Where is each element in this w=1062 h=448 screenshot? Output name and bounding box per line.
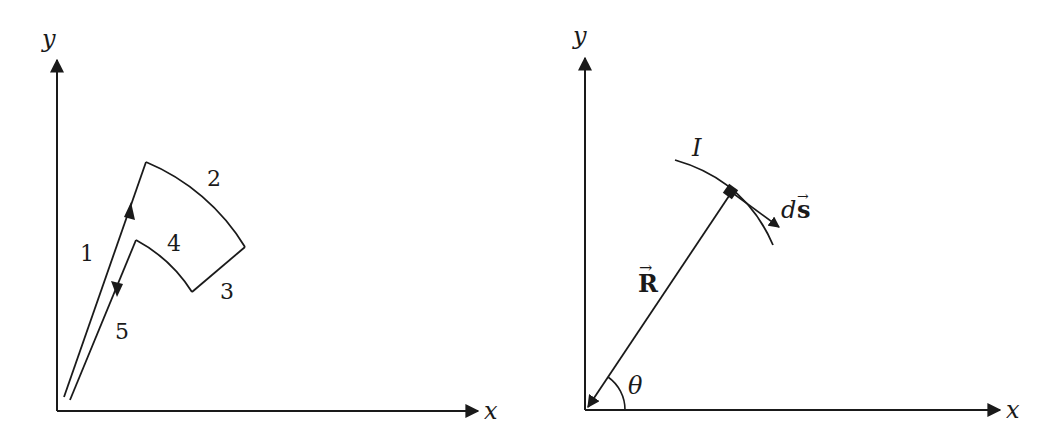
current-label: I xyxy=(691,134,702,162)
segment-label-5: 5 xyxy=(115,319,129,344)
segment-3 xyxy=(192,247,245,292)
segment-label-3: 3 xyxy=(220,279,234,304)
left-x-axis-label: x xyxy=(484,397,498,425)
left-y-axis-label: y xyxy=(41,25,56,53)
theta-label: θ xyxy=(628,372,643,400)
segment-1 xyxy=(64,162,146,397)
right-diagram: y x I R → d s → θ xyxy=(572,22,1020,424)
segment-4-inner-arc xyxy=(136,240,192,292)
arrow-up-icon xyxy=(124,202,135,220)
position-vector-arrow-accent: → xyxy=(639,258,652,277)
ds-label-d: d xyxy=(781,196,796,224)
position-vector-r xyxy=(588,193,731,407)
left-diagram: y x 1 2 3 4 5 xyxy=(41,25,498,425)
segment-label-1: 1 xyxy=(80,241,94,266)
theta-arc xyxy=(608,377,625,410)
right-y-axis-label: y xyxy=(572,22,587,50)
ds-vector xyxy=(734,194,779,227)
ds-arrow-accent: → xyxy=(797,188,809,204)
current-loop xyxy=(64,162,245,400)
current-element xyxy=(723,184,738,199)
segment-label-4: 4 xyxy=(167,231,181,256)
right-x-axis-label: x xyxy=(1006,396,1020,424)
figure: y x 1 2 3 4 5 y x I R xyxy=(0,0,1062,448)
segment-label-2: 2 xyxy=(207,166,221,191)
segment-2-outer-arc xyxy=(146,162,245,247)
